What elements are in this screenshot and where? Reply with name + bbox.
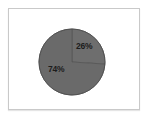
pie-chart-graphic	[9, 9, 141, 111]
pie-slice-label-1: 74%	[48, 65, 64, 74]
chart-plot-area: 26% 74%	[9, 9, 139, 109]
pie-slice-label-0: 26%	[76, 42, 92, 51]
chart-frame-border: 26% 74%	[8, 8, 140, 110]
pie-chart-figure: 26% 74%	[0, 0, 148, 120]
